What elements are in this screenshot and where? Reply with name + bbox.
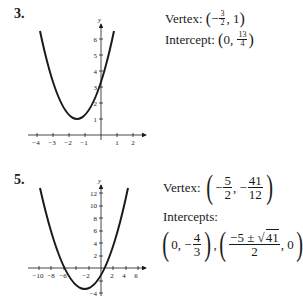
answer-problem-5: Vertex: (− 52, − 4112) Intercepts: (0, −…: [163, 170, 303, 261]
intercept-x: 0: [223, 33, 230, 46]
numerator: −5 ± √41: [229, 231, 280, 245]
intercept-y-fraction: 134: [237, 31, 247, 48]
svg-text:−6: −6: [59, 272, 67, 280]
svg-text:3: 3: [94, 84, 98, 92]
svg-text:6: 6: [94, 227, 98, 235]
numerator-prefix: −5 ±: [230, 230, 254, 245]
vertex-x-fraction: 32: [219, 10, 225, 27]
graph-problem-3: y −4−3−2 −112 123 456: [0, 0, 150, 150]
intercepts-label-line: Intercepts:: [163, 210, 303, 223]
svg-text:4: 4: [94, 240, 98, 248]
svg-text:y: y: [97, 177, 102, 185]
intercept-line: Intercept: (0, 134): [165, 31, 254, 48]
svg-text:−8: −8: [47, 272, 55, 280]
denominator: 2: [223, 188, 232, 201]
numerator: 4: [193, 231, 202, 245]
numerator: 41: [248, 174, 263, 188]
intercept-x-fraction: −5 ± √412: [229, 231, 280, 258]
svg-text:5: 5: [94, 52, 98, 60]
svg-text:6: 6: [134, 272, 138, 280]
svg-text:2: 2: [131, 139, 135, 147]
svg-text:−4: −4: [32, 139, 40, 147]
svg-text:1: 1: [115, 139, 119, 147]
vertex-y-fraction: 4112: [248, 174, 263, 201]
denominator: 12: [248, 188, 263, 201]
svg-text:−1: −1: [80, 139, 88, 147]
intercepts-line: (0, − 43), ( −5 ± √412, 0): [160, 227, 303, 261]
graph-problem-5: y −10−8−6 −2246 12108 642 −4: [0, 150, 150, 306]
vertex-line: Vertex: (− 32, 1): [165, 10, 254, 27]
numerator: 5: [223, 174, 232, 188]
svg-text:4: 4: [122, 272, 126, 280]
denominator: 2: [219, 19, 225, 27]
denominator: 4: [239, 40, 245, 48]
intercept-label: Intercept:: [165, 33, 215, 46]
svg-text:−2: −2: [64, 139, 72, 147]
svg-text:10: 10: [90, 202, 98, 210]
denominator: 2: [250, 245, 259, 258]
sqrt-argument: 41: [266, 229, 279, 245]
denominator: 3: [193, 245, 202, 258]
vertex-line: Vertex: (− 52, − 4112): [163, 170, 303, 204]
sign: −: [215, 181, 222, 194]
svg-text:6: 6: [94, 36, 98, 44]
vertex-x-fraction: 52: [223, 174, 232, 201]
intercept-x: 0: [171, 238, 178, 251]
svg-text:−2: −2: [82, 272, 90, 280]
svg-text:1: 1: [94, 116, 98, 124]
svg-text:−3: −3: [48, 139, 56, 147]
svg-text:8: 8: [94, 215, 98, 223]
svg-text:4: 4: [94, 68, 98, 76]
svg-text:−10: −10: [33, 272, 44, 280]
sign: −: [211, 12, 218, 25]
svg-text:−4: −4: [90, 290, 98, 298]
answer-problem-3: Vertex: (− 32, 1) Intercept: (0, 134): [165, 10, 254, 48]
svg-text:2: 2: [110, 272, 114, 280]
svg-text:2: 2: [94, 252, 98, 260]
svg-text:12: 12: [90, 190, 98, 198]
intercept-y-fraction: 43: [193, 231, 202, 258]
sign: −: [239, 181, 246, 194]
sign: −: [184, 238, 191, 251]
intercept-y: 0: [287, 238, 294, 251]
vertex-label: Vertex:: [163, 181, 201, 194]
intercepts-label: Intercepts:: [163, 210, 218, 223]
svg-text:y: y: [97, 16, 102, 24]
vertex-label: Vertex:: [165, 12, 203, 25]
